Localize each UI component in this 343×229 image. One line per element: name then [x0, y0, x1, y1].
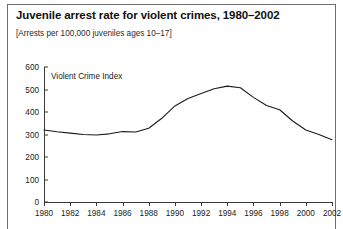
x-tick-label: 1988 [140, 209, 158, 218]
line-series-violent-crime-index [44, 67, 336, 203]
chart-subtitle: [Arrests per 100,000 juveniles ages 10–1… [16, 29, 172, 38]
x-tick-label: 1994 [218, 209, 236, 218]
y-tick-label: 600 [25, 63, 39, 72]
x-tick-label: 1992 [192, 209, 210, 218]
y-tick-label: 200 [25, 153, 39, 162]
y-tick-label: 400 [25, 108, 39, 117]
chart-page: Juvenile arrest rate for violent crimes,… [0, 0, 343, 229]
x-tick-label: 1990 [166, 209, 184, 218]
x-tick-label: 2000 [297, 209, 315, 218]
x-tick-label: 1986 [113, 209, 131, 218]
x-tick-label: 1980 [35, 209, 53, 218]
y-tick-label: 300 [25, 130, 39, 139]
x-tick-label: 2002 [323, 209, 341, 218]
x-tick-label: 1984 [87, 209, 105, 218]
chart-title: Juvenile arrest rate for violent crimes,… [16, 9, 280, 21]
x-tick-label: 1996 [244, 209, 262, 218]
y-tick-label: 100 [25, 175, 39, 184]
x-tick-label: 1998 [271, 209, 289, 218]
y-tick-label: 0 [34, 198, 39, 207]
x-tick-label: 1982 [61, 209, 79, 218]
y-tick-label: 500 [25, 85, 39, 94]
